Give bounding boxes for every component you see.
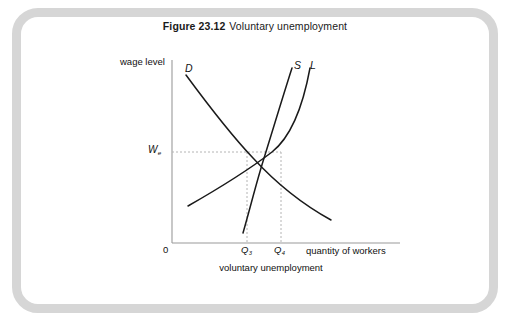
- chart-plot-area: [0, 0, 510, 325]
- origin-label: 0: [163, 245, 168, 255]
- q4-main: Q: [274, 244, 281, 255]
- curve-demand-d: [186, 75, 331, 220]
- x-tick-label-q4: Q4: [274, 245, 285, 255]
- y-axis-label: wage level: [120, 57, 165, 67]
- page-background: Figure 23.12Voluntary unemployment wage …: [0, 0, 510, 325]
- curve-label-l: L: [310, 60, 316, 71]
- curve-labour-force-l: [188, 68, 310, 206]
- x-axis-label: quantity of workers: [306, 246, 386, 256]
- curve-label-d: D: [185, 63, 193, 74]
- q3-main: Q: [241, 244, 248, 255]
- annotation-voluntary-unemployment: voluntary unemployment: [218, 262, 324, 275]
- curve-label-s: S: [294, 60, 301, 71]
- x-tick-label-q3: Q3: [241, 245, 252, 255]
- we-subscript: e: [158, 149, 161, 156]
- q3-subscript: 3: [249, 250, 252, 256]
- curve-supply-s: [243, 68, 292, 233]
- y-tick-label-we: We: [148, 145, 161, 155]
- we-main: W: [148, 144, 157, 155]
- q4-subscript: 4: [282, 250, 285, 256]
